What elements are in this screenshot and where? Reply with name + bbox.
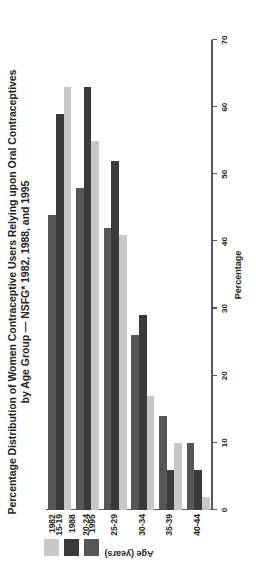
value-axis-tick	[212, 240, 217, 241]
chart-figure: Percentage Distribution of Women Contrac…	[0, 0, 256, 584]
value-axis-tick	[212, 39, 217, 40]
chart-title-line-1: Percentage Distribution of Women Contrac…	[6, 0, 19, 584]
bar-1995-25-29	[104, 228, 112, 510]
value-axis-tick-label: 30	[220, 304, 229, 313]
value-axis-tick-label: 40	[220, 237, 229, 246]
chart-title-line-2: by Age Group — NSFG* 1982, 1988, and 199…	[19, 0, 32, 584]
bar-1982-25-29	[119, 235, 127, 510]
bar-1995-35-39	[159, 416, 167, 510]
value-axis-tick	[212, 442, 217, 443]
legend-swatch-1982	[44, 539, 59, 556]
value-axis-tick-label: 20	[220, 371, 229, 380]
category-label-30-34: 30-34	[137, 514, 147, 536]
bar-group: 15-19	[48, 40, 71, 510]
bar-1988-25-29	[111, 161, 119, 510]
value-axis-tick	[212, 173, 217, 174]
bar-1988-30-34	[139, 315, 147, 510]
category-label-40-44: 40-44	[192, 514, 202, 536]
bar-1988-40-44	[194, 470, 202, 510]
legend-item-1988: 1988	[64, 514, 79, 556]
bar-1995-20-24	[76, 188, 84, 510]
value-axis-tick-label: 0	[220, 508, 229, 512]
category-label-25-29: 25-29	[109, 514, 119, 536]
bar-1995-30-34	[131, 335, 139, 510]
legend-label-1988: 1988	[67, 514, 77, 533]
bar-1982-30-34	[147, 396, 155, 510]
bar-group: 20-24	[76, 40, 99, 510]
bar-group: 25-29	[104, 40, 127, 510]
bar-1995-40-44	[187, 443, 195, 510]
chart-canvas: Percentage Distribution of Women Contrac…	[0, 0, 256, 584]
legend-swatch-1988	[64, 539, 79, 556]
plot-area: 010203040506070 15-1920-2425-2930-3435-3…	[46, 40, 212, 510]
category-label-20-24: 20-24	[81, 514, 91, 536]
value-axis-title: Percentage	[233, 251, 243, 300]
value-axis-tick	[212, 307, 217, 308]
bar-group: 40-44	[187, 40, 210, 510]
value-axis-tick-label: 10	[220, 438, 229, 447]
value-axis-tick-label: 70	[220, 36, 229, 45]
bar-1982-15-19	[64, 87, 72, 510]
bar-1982-40-44	[202, 497, 210, 510]
chart-title: Percentage Distribution of Women Contrac…	[6, 0, 33, 584]
bar-group: 35-39	[159, 40, 182, 510]
bar-1988-35-39	[167, 470, 175, 510]
value-axis-tick	[212, 106, 217, 107]
bar-1982-35-39	[174, 443, 182, 510]
bar-group: 30-34	[131, 40, 154, 510]
category-label-15-19: 15-19	[54, 514, 64, 536]
value-axis-line	[211, 40, 212, 510]
bar-1988-15-19	[56, 114, 64, 510]
value-axis-tick	[212, 509, 217, 510]
category-axis-title: Age (years)	[104, 549, 153, 559]
value-axis-tick	[212, 375, 217, 376]
bar-1988-20-24	[84, 87, 92, 510]
legend-swatch-1995	[84, 539, 99, 556]
bar-1995-15-19	[48, 215, 56, 510]
bar-1982-20-24	[91, 141, 99, 510]
value-axis-tick-label: 50	[220, 170, 229, 179]
value-axis-tick-label: 60	[220, 103, 229, 112]
category-label-35-39: 35-39	[164, 514, 174, 536]
